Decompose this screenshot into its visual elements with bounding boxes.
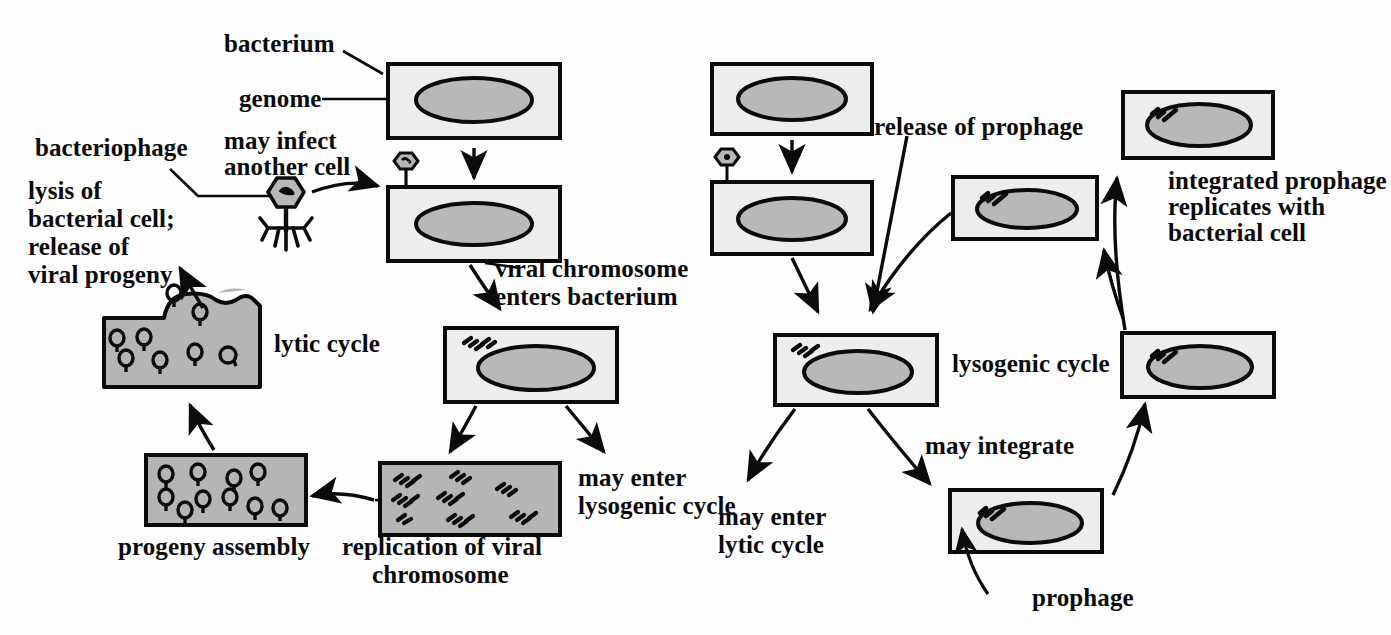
label-integrated-prophage-line3: bacterial cell bbox=[1168, 220, 1306, 246]
arrow-may-integrate bbox=[868, 409, 930, 484]
cell-box-right-prophage-integrating bbox=[950, 490, 1102, 552]
label-integrated-prophage-line1: integrated prophage bbox=[1168, 168, 1387, 194]
arrow-integrated-up bbox=[1113, 404, 1145, 495]
label-genome: genome bbox=[239, 85, 322, 113]
label-bacteriophage: bacteriophage bbox=[35, 134, 188, 162]
label-progeny-assembly: progeny assembly bbox=[118, 533, 310, 561]
label-may-enter-lysogenic-line2: lysogenic cycle bbox=[578, 492, 736, 520]
cell-box-right-prophage-mid bbox=[1122, 333, 1274, 397]
label-viral-chromosome-line2: enters bacterium bbox=[495, 283, 678, 311]
cell-box-left-top-bacterium bbox=[388, 64, 560, 138]
label-lysis-line1: lysis of bbox=[28, 178, 102, 204]
label-replication-line2: chromosome bbox=[372, 561, 509, 589]
bacterium-leader bbox=[343, 51, 383, 74]
attached-phage-icon bbox=[394, 153, 418, 187]
cell-box-left-chromosome-inside bbox=[445, 328, 617, 402]
label-bacterium: bacterium bbox=[224, 30, 335, 58]
label-viral-chromosome-line1: viral chromosome bbox=[495, 255, 688, 283]
cell-box-left-replication bbox=[380, 463, 560, 535]
arrow-assembly-to-lysis bbox=[190, 405, 214, 450]
arrow-to-lysogenic-note bbox=[566, 406, 604, 452]
cell-box-right-prophage-left bbox=[953, 177, 1097, 239]
cell-box-left-lysed-cell bbox=[104, 285, 260, 387]
label-may-infect-line2: another cell bbox=[224, 153, 350, 181]
label-may-enter-lytic-line2: lytic cycle bbox=[718, 531, 824, 559]
label-integrated-prophage-line2: replicates with bbox=[1168, 194, 1325, 220]
arrow-to-replication bbox=[450, 406, 476, 452]
label-lytic-cycle: lytic cycle bbox=[274, 330, 380, 358]
cell-box-right-prophage-top bbox=[1123, 92, 1273, 158]
label-release-of-prophage: release of prophage bbox=[874, 113, 1083, 141]
label-lysis-line3: release of bbox=[28, 234, 129, 260]
label-may-integrate: may integrate bbox=[925, 432, 1074, 460]
label-may-enter-lysogenic-line1: may enter bbox=[578, 464, 687, 492]
arrow-release-of-prophage bbox=[873, 136, 907, 312]
arrow-may-enter-lytic-cycle bbox=[748, 409, 795, 480]
bacteriophage-icon bbox=[260, 178, 312, 250]
cell-box-right-top-bacterium bbox=[712, 64, 872, 134]
label-may-infect-line1: may infect bbox=[224, 127, 337, 155]
cell-box-left-progeny-assembly bbox=[146, 455, 306, 525]
label-lysis-line4: viral progeny bbox=[28, 262, 173, 288]
label-may-enter-lytic-line1: may enter bbox=[718, 503, 827, 531]
attached-phage-icon-right bbox=[715, 149, 739, 182]
arrow-replication-to-assembly bbox=[312, 494, 374, 500]
label-replication-line1: replication of viral bbox=[342, 533, 542, 561]
label-lysis-line2: bacterial cell; bbox=[28, 206, 175, 232]
cell-box-right-chromosome-inside bbox=[775, 335, 937, 405]
figure-canvas: bacterium genome bacteriophage may infec… bbox=[0, 0, 1391, 635]
label-prophage: prophage bbox=[1032, 584, 1134, 612]
arrow-may-infect-another-cell bbox=[312, 183, 378, 192]
label-lysogenic-cycle: lysogenic cycle bbox=[952, 350, 1110, 378]
arrow-right-infected-to-chromosome bbox=[792, 258, 818, 312]
